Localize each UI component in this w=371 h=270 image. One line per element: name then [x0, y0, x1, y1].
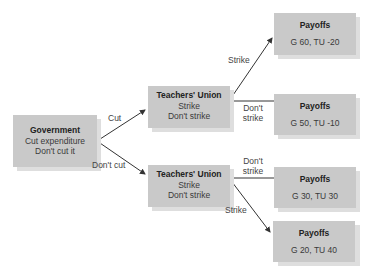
teachers-union-bottom-node: Teachers' Union Strike Don't strike	[148, 165, 230, 207]
tu-bottom-title: Teachers' Union	[148, 169, 230, 180]
payoff-1-value: G 60, TU -20	[274, 37, 356, 48]
edge-label-bottom-dont-strike: Don't strike	[238, 156, 268, 176]
tu-bottom-option-strike: Strike	[148, 180, 230, 191]
payoff-node-2: Payoffs G 50, TU -10	[274, 94, 356, 135]
edge-label-bottom-strike: Strike	[225, 205, 247, 215]
edge-label-dont-cut: Don't cut	[92, 160, 125, 170]
teachers-union-top-node: Teachers' Union Strike Don't strike	[148, 86, 230, 128]
payoff-3-value: G 30, TU 30	[274, 191, 356, 202]
payoff-2-value: G 50, TU -10	[274, 118, 356, 129]
tu-top-option-strike: Strike	[148, 101, 230, 112]
edge-label-top-strike: Strike	[228, 55, 250, 65]
payoff-3-title: Payoffs	[274, 174, 356, 185]
government-option-cut: Cut expenditure	[13, 136, 97, 147]
edge-label-top-strike-word: strike	[238, 113, 268, 123]
tu-top-option-dont-strike: Don't strike	[148, 111, 230, 122]
payoff-1-title: Payoffs	[274, 20, 356, 31]
payoff-4-title: Payoffs	[273, 228, 355, 239]
payoff-2-title: Payoffs	[274, 101, 356, 112]
payoff-node-1: Payoffs G 60, TU -20	[274, 13, 356, 55]
edge-label-bottom-strike-word: strike	[238, 166, 268, 176]
tu-top-title: Teachers' Union	[148, 90, 230, 101]
edge-label-top-dont: Don't	[238, 103, 268, 113]
government-title: Government	[13, 125, 97, 136]
government-node: Government Cut expenditure Don't cut it	[13, 115, 97, 167]
payoff-node-3: Payoffs G 30, TU 30	[274, 167, 356, 208]
payoff-4-value: G 20, TU 40	[273, 245, 355, 256]
tu-bottom-option-dont-strike: Don't strike	[148, 190, 230, 201]
payoff-node-4: Payoffs G 20, TU 40	[273, 221, 355, 262]
edge-label-cut: Cut	[108, 113, 121, 123]
edge-label-top-dont-strike: Don't strike	[238, 103, 268, 123]
edge-label-bottom-dont: Don't	[238, 156, 268, 166]
government-option-dont-cut: Don't cut it	[13, 146, 97, 157]
